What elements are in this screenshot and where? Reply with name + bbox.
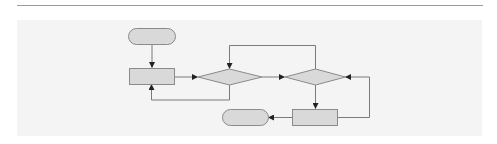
process-box-2 xyxy=(293,110,338,126)
decision-diamond-1 xyxy=(198,69,262,85)
edge-process2-loop-to-decision2 xyxy=(338,77,370,118)
end-terminator xyxy=(223,110,269,126)
edge-decision1-loop-to-process1 xyxy=(152,85,230,101)
flowchart-diagram xyxy=(0,0,497,144)
decision-diamond-2 xyxy=(285,69,346,85)
process-box-1 xyxy=(130,69,175,85)
start-terminator xyxy=(129,29,176,45)
edge-decision2-loop-to-decision1 xyxy=(230,46,316,70)
